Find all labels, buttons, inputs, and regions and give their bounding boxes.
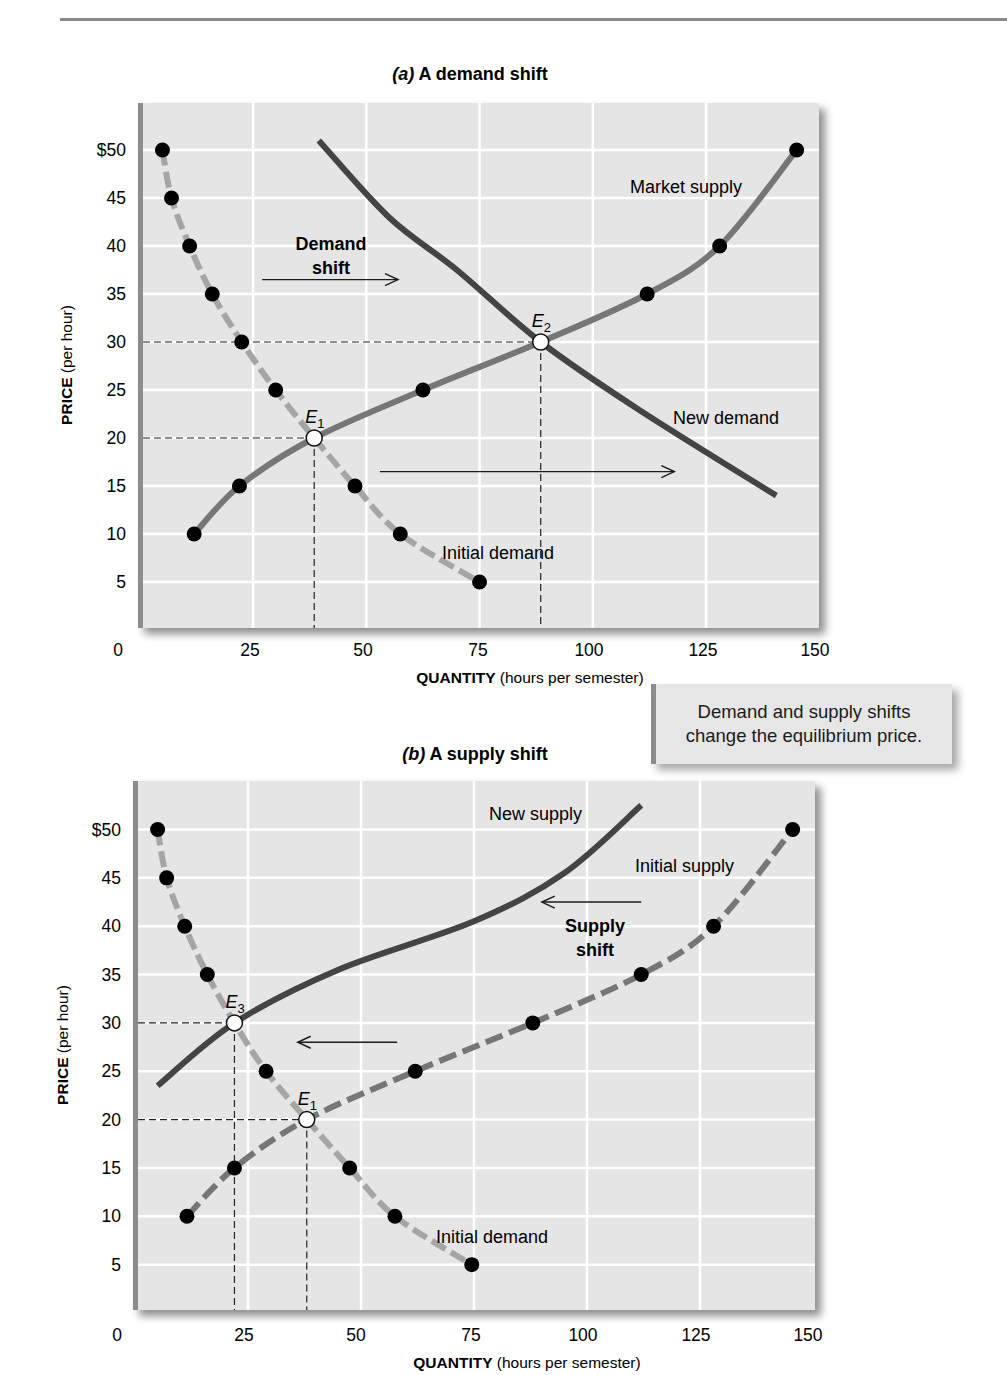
panel-a-demand-shift-label-line1: Demand [295, 234, 366, 254]
x-tick-label: 100 [568, 1325, 597, 1345]
panel-b-y-label-rest: (per hour) [54, 985, 71, 1053]
market-supply-data-point [415, 383, 430, 398]
initial-supply-data-point [179, 1209, 194, 1224]
initial-demand-data-point [159, 870, 174, 885]
panel-b-x-label-bold: QUANTITY [413, 1354, 493, 1371]
initial-demand-data-point [150, 822, 165, 837]
initial-supply-data-point [785, 822, 800, 837]
panel-a-title-text: A demand shift [419, 64, 548, 84]
initial-demand-data-point [234, 335, 249, 350]
caption-line-2: change the equilibrium price. [686, 724, 923, 748]
y-tick-label: 35 [102, 965, 121, 985]
equilibrium-point-e1 [306, 430, 322, 446]
panel-a-x-label-rest: (hours per semester) [500, 669, 644, 686]
panel-b-title: (b) A supply shift [402, 744, 548, 764]
initial-demand-data-point [155, 143, 170, 158]
panel-b-y-label-bold: PRICE [54, 1058, 71, 1105]
y-tick-label: 25 [107, 380, 126, 400]
x-tick-label: 25 [234, 1325, 253, 1345]
market-supply-data-point [187, 527, 202, 542]
initial-supply-data-point [408, 1064, 423, 1079]
initial-demand-data-point [347, 479, 362, 494]
market-supply-label: Market supply [630, 177, 742, 197]
panel-b-supply-shift: (b) A supply shift $5045403530252015105 … [54, 744, 823, 1371]
initial-demand-data-point [393, 527, 408, 542]
y-tick-label: 5 [116, 572, 126, 592]
equilibrium-point-e1 [299, 1112, 315, 1128]
y-tick-label: 5 [111, 1255, 121, 1275]
panel-a-x-label-bold: QUANTITY [416, 669, 496, 686]
initial-demand-data-point [259, 1064, 274, 1079]
x-tick-label: 75 [461, 1325, 480, 1345]
y-tick-label: 30 [107, 332, 127, 352]
supply-shift-label-line1: Supply [565, 916, 625, 936]
initial-supply-data-point [634, 967, 649, 982]
initial-demand-data-point [268, 383, 283, 398]
new-demand-label: New demand [673, 408, 779, 428]
y-tick-label: $50 [97, 140, 126, 160]
panel-a-x-axis-label: QUANTITY (hours per semester) [416, 669, 643, 686]
panel-a-y-label-rest: (per hour) [58, 305, 75, 373]
panel-a-initial-demand-label: Initial demand [442, 543, 554, 563]
panel-a-y-axis-bar [138, 103, 143, 628]
initial-demand-data-point [387, 1209, 402, 1224]
y-tick-label: 30 [102, 1013, 122, 1033]
new-supply-label: New supply [489, 804, 582, 824]
initial-supply-data-point [706, 919, 721, 934]
x-tick-label: 50 [353, 640, 373, 660]
x-tick-label: 0 [113, 640, 123, 660]
panel-b-x-ticks: 0255075100125150 [112, 1325, 823, 1345]
y-tick-label: 10 [107, 524, 127, 544]
x-tick-label: 75 [468, 640, 487, 660]
y-tick-label: $50 [92, 820, 121, 840]
caption-text: Demand and supply shifts change the equi… [686, 700, 923, 748]
panel-b-x-label-rest: (hours per semester) [497, 1354, 641, 1371]
y-tick-label: 20 [102, 1110, 122, 1130]
initial-demand-data-point [177, 919, 192, 934]
initial-supply-data-point [525, 1015, 540, 1030]
x-tick-label: 100 [574, 640, 603, 660]
x-tick-label: 125 [688, 640, 717, 660]
initial-demand-data-point [342, 1160, 357, 1175]
y-tick-label: 20 [107, 428, 127, 448]
initial-demand-data-point [182, 239, 197, 254]
market-supply-data-point [640, 287, 655, 302]
market-supply-data-point [232, 479, 247, 494]
initial-demand-data-point [464, 1257, 479, 1272]
panel-a-y-axis-label: PRICE (per hour) [58, 305, 75, 425]
equilibrium-point-e3 [226, 1015, 242, 1031]
panel-b-y-axis-label: PRICE (per hour) [54, 985, 71, 1105]
panel-a-x-ticks: 0255075100125150 [113, 640, 830, 660]
x-tick-label: 25 [240, 640, 259, 660]
panel-b-x-axis-label: QUANTITY (hours per semester) [413, 1354, 640, 1371]
market-supply-data-point [789, 143, 804, 158]
panel-b-y-axis-bar [133, 781, 138, 1310]
panel-a-y-label-bold: PRICE [58, 378, 75, 425]
initial-demand-data-point [164, 191, 179, 206]
y-tick-label: 10 [102, 1206, 122, 1226]
caption-line-1: Demand and supply shifts [686, 700, 923, 724]
x-tick-label: 150 [793, 1325, 822, 1345]
panel-b-title-prefix: (b) [402, 744, 425, 764]
x-tick-label: 0 [112, 1325, 122, 1345]
y-tick-label: 25 [102, 1061, 121, 1081]
x-tick-label: 150 [800, 640, 829, 660]
initial-demand-data-point [472, 575, 487, 590]
y-tick-label: 15 [102, 1158, 121, 1178]
y-tick-label: 40 [107, 236, 127, 256]
initial-demand-data-point [200, 967, 215, 982]
equilibrium-point-e2 [533, 334, 549, 350]
market-supply-data-point [712, 239, 727, 254]
y-tick-label: 45 [102, 868, 121, 888]
initial-supply-label: Initial supply [635, 856, 734, 876]
panel-b-title-text: A supply shift [429, 744, 547, 764]
panel-b-initial-demand-label: Initial demand [436, 1227, 548, 1247]
y-tick-label: 40 [102, 916, 122, 936]
x-tick-label: 125 [681, 1325, 710, 1345]
panel-a-demand-shift-label-line2: shift [312, 258, 350, 278]
panel-b-y-ticks: $5045403530252015105 [92, 820, 121, 1275]
panel-a-y-ticks: $5045403530252015105 [97, 140, 126, 592]
panel-a-demand-shift: (a) A demand shift $5045403530252015105 … [58, 64, 830, 686]
x-tick-label: 50 [346, 1325, 366, 1345]
y-tick-label: 35 [107, 284, 126, 304]
